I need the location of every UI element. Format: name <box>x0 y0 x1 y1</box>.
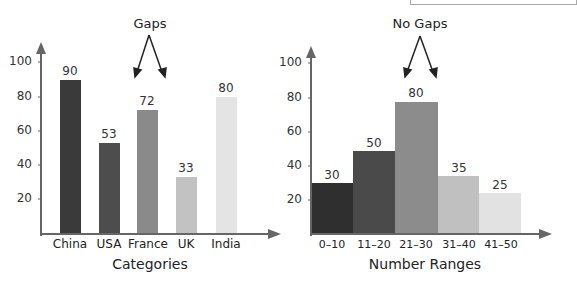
value-india: 80 <box>211 81 241 95</box>
value-china: 90 <box>55 64 85 78</box>
x-label-china: China <box>45 237 95 251</box>
y-tick-20: 20 <box>272 192 302 206</box>
value-41-50: 25 <box>485 178 515 192</box>
x-label-21-30: 21–30 <box>393 238 439 251</box>
x-label-india: India <box>206 237 246 251</box>
bar-uk <box>176 177 197 233</box>
x-axis-title: Number Ranges <box>360 256 490 272</box>
no-gaps-arrows-icon <box>404 36 437 77</box>
gaps-annotation: Gaps <box>120 16 180 31</box>
value-11-20: 50 <box>359 136 389 150</box>
bar-21-30 <box>395 102 438 233</box>
value-france: 72 <box>132 94 162 108</box>
y-tick-100: 100 <box>2 54 32 68</box>
gaps-arrows-icon <box>134 35 166 77</box>
bar-usa <box>99 143 120 233</box>
x-label-usa: USA <box>89 237 129 251</box>
y-tick-60: 60 <box>272 124 302 138</box>
y-tick-100: 100 <box>272 55 302 69</box>
bar-china <box>60 80 81 233</box>
x-axis-title: Categories <box>90 256 210 272</box>
y-tick-40: 40 <box>2 157 32 171</box>
value-uk: 33 <box>171 161 201 175</box>
value-31-40: 35 <box>444 161 474 175</box>
x-label-41-50: 41–50 <box>478 238 524 251</box>
bar-31-40 <box>438 176 479 233</box>
y-axis-arrow-icon <box>36 42 46 54</box>
x-label-11-20: 11–20 <box>351 238 397 251</box>
x-label-0-10: 0–10 <box>310 238 354 251</box>
no-gaps-annotation: No Gaps <box>380 16 460 31</box>
bar-india <box>216 97 237 233</box>
bar-11-20 <box>353 151 395 233</box>
x-label-uk: UK <box>171 237 201 251</box>
value-0-10: 30 <box>317 168 347 182</box>
value-21-30: 80 <box>401 86 431 100</box>
x-axis-arrow-icon <box>539 229 552 239</box>
x-label-31-40: 31–40 <box>436 238 482 251</box>
y-tick-20: 20 <box>2 191 32 205</box>
y-tick-60: 60 <box>2 123 32 137</box>
bar-0-10 <box>312 183 353 233</box>
x-label-france: France <box>124 237 172 251</box>
value-usa: 53 <box>94 127 124 141</box>
y-axis-arrow-icon <box>306 46 316 58</box>
y-tick-80: 80 <box>2 89 32 103</box>
bar-41-50 <box>479 193 521 233</box>
y-tick-40: 40 <box>272 158 302 172</box>
bar-france <box>137 110 158 233</box>
y-tick-80: 80 <box>272 90 302 104</box>
